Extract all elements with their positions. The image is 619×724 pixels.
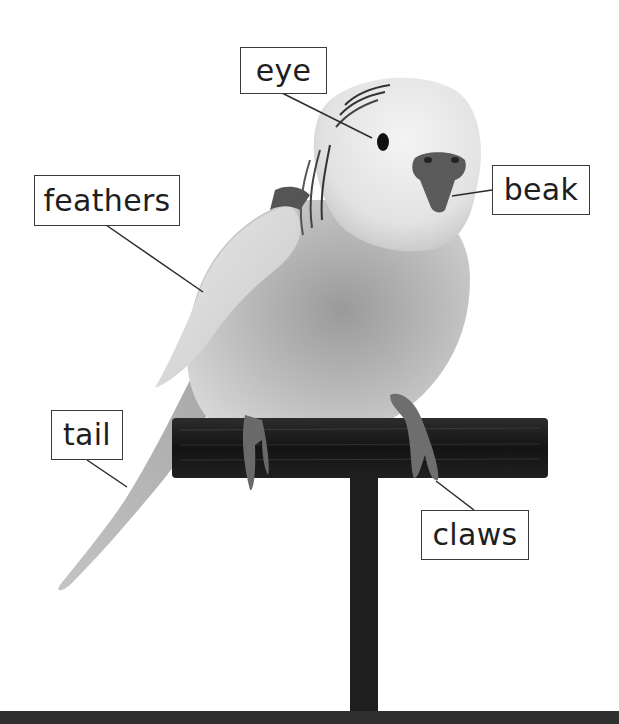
bottom-band <box>0 711 619 724</box>
label-tail: tail <box>51 410 123 460</box>
label-tail-text: tail <box>63 420 111 450</box>
perch-bar <box>172 418 548 478</box>
label-eye: eye <box>240 47 327 94</box>
label-beak-text: beak <box>504 175 578 205</box>
label-claws: claws <box>421 510 529 560</box>
label-feathers-text: feathers <box>44 186 171 216</box>
labeled-budgie-diagram: eye feathers beak tail claws <box>0 0 619 724</box>
label-feathers: feathers <box>34 175 180 226</box>
label-beak: beak <box>492 165 590 215</box>
perch-pole <box>350 470 378 715</box>
label-eye-text: eye <box>256 56 312 86</box>
label-claws-text: claws <box>433 520 518 550</box>
budgie-photo <box>0 0 619 724</box>
